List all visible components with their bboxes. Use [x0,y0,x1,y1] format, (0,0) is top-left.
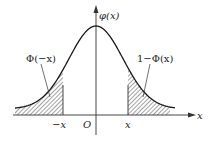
left-area-label: Φ(−x) [26,53,56,64]
right-area-leader-line [143,64,150,97]
origin-label: O [83,119,91,130]
neg-x-label: −x [52,119,66,130]
normal-distribution-diagram: φ(x) x O −x x Φ(−x) 1−Φ(x) [0,0,210,144]
left-tail-area [15,70,63,115]
right-area-label: 1−Φ(x) [137,53,173,64]
right-tail-area [128,68,170,115]
x-axis-arrow-icon [188,113,196,118]
y-axis-label: φ(x) [99,10,120,21]
pos-x-label: x [125,119,131,130]
x-axis-label: x [197,110,203,121]
left-area-leader-line [41,64,50,97]
y-axis-arrow-icon [94,5,99,13]
density-curve [15,26,175,108]
